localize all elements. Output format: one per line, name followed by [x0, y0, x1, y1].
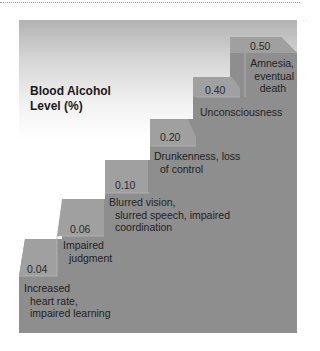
step-description: Unconsciousness	[200, 106, 282, 119]
desc-line: Amnesia,	[246, 57, 294, 70]
step-description: Blurred vision,slurred speech, impairedc…	[109, 196, 230, 234]
level-label: 0.04	[27, 263, 47, 275]
desc-line: Increased	[24, 282, 111, 295]
step-description: Drunkenness, lossof control	[154, 150, 240, 175]
desc-line: Unconsciousness	[200, 106, 282, 119]
level-label: 0.40	[205, 84, 225, 96]
desc-line: Impaired	[63, 239, 112, 252]
desc-line: of control	[154, 163, 240, 176]
desc-line: eventual	[246, 70, 294, 83]
level-label: 0.50	[250, 40, 270, 52]
desc-line: Drunkenness, loss	[154, 150, 240, 163]
desc-line: death	[246, 82, 294, 95]
level-label: 0.06	[70, 223, 90, 235]
desc-line: coordination	[109, 221, 230, 234]
chart-title: Blood Alcohol Level (%)	[30, 84, 111, 114]
step-description: Impairedjudgment	[63, 239, 112, 264]
title-line-1: Blood Alcohol	[30, 84, 111, 99]
desc-line: impaired learning	[24, 307, 111, 320]
desc-line: judgment	[63, 252, 112, 265]
step-description: Increasedheart rate,impaired learning	[24, 282, 111, 320]
level-label: 0.10	[115, 179, 135, 191]
step-description: Amnesia,eventualdeath	[246, 57, 294, 95]
title-line-2: Level (%)	[30, 99, 111, 114]
level-label: 0.20	[160, 131, 180, 143]
desc-line: heart rate,	[24, 295, 111, 308]
desc-line: Blurred vision,	[109, 196, 230, 209]
desc-line: slurred speech, impaired	[109, 209, 230, 222]
